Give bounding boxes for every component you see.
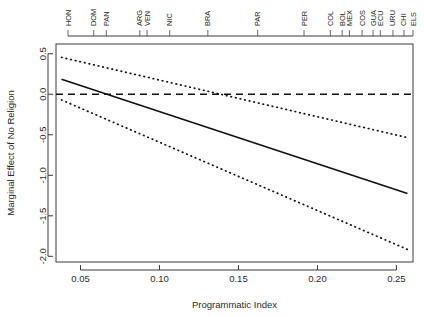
rug-country-label-ven: VEN (143, 11, 152, 26)
rug-country-label-nic: NIC (165, 13, 174, 26)
chart-background (0, 0, 424, 317)
rug-country-label-els: ELS (409, 12, 418, 26)
y-tick-label: -0.5 (38, 127, 49, 143)
y-tick-label: 0.5 (38, 47, 49, 60)
rug-country-label-cos: COS (358, 10, 367, 26)
rug-country-label-dom: DOM (89, 9, 98, 26)
y-tick-label: 0.0 (38, 88, 49, 101)
rug-country-label-uru: URU (388, 10, 397, 26)
y-axis-label: Marginal Effect of No Religion (5, 90, 16, 216)
x-tick-label: 0.20 (308, 273, 327, 284)
x-tick-label: 0.25 (387, 273, 406, 284)
rug-country-label-mex: MEX (345, 10, 354, 26)
rug-country-label-par: PAR (253, 11, 262, 26)
rug-country-label-bra: BRA (203, 11, 212, 26)
rug-country-label-pan: PAN (102, 11, 111, 26)
x-tick-label: 0.15 (229, 273, 248, 284)
x-axis-label: Programmatic Index (192, 299, 277, 310)
y-tick-label: -1.5 (38, 208, 49, 224)
rug-country-label-hon: HON (64, 10, 73, 26)
rug-country-label-per: PER (300, 11, 309, 26)
x-tick-label: 0.05 (71, 273, 90, 284)
x-tick-label: 0.10 (150, 273, 169, 284)
chart-canvas: HONDOMPANARGVENNICBRAPARPERCOLBOLMEXCOSG… (0, 0, 424, 317)
rug-country-label-col: COL (326, 11, 335, 26)
rug-country-label-ecu: ECU (376, 10, 385, 26)
marginal-effect-plot: HONDOMPANARGVENNICBRAPARPERCOLBOLMEXCOSG… (0, 0, 424, 317)
y-tick-label: -1.0 (38, 167, 49, 183)
rug-country-label-chi: CHI (399, 13, 408, 26)
y-tick-label: -2.0 (38, 248, 49, 264)
